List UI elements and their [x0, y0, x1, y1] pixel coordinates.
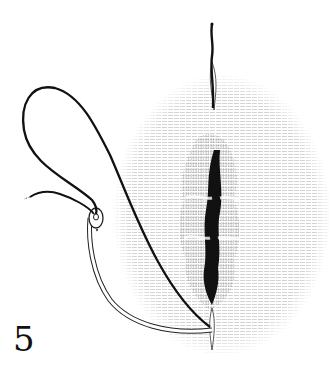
figure-number: 5 — [13, 322, 35, 356]
illustration-svg — [0, 0, 332, 377]
figure-canvas: 5 — [0, 0, 332, 377]
